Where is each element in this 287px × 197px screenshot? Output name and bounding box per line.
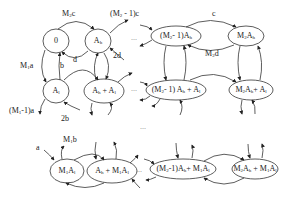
edge-label-m2m1c: (M2 - 1)c bbox=[110, 10, 139, 18]
edge-label-a: a bbox=[36, 144, 40, 152]
edge-label-2b: 2b bbox=[61, 115, 69, 123]
edge-label-m1m1a: (M1-1)a bbox=[9, 107, 34, 115]
edge-label-m1a: M1a bbox=[20, 62, 33, 70]
node-label: (M2-1)Ah+ M1Al bbox=[156, 165, 209, 173]
node-label: M1Al bbox=[59, 167, 76, 175]
ellipsis: ... bbox=[131, 85, 137, 93]
node-label: Ah + Al bbox=[92, 87, 116, 95]
edge-label-2d: 2d bbox=[113, 52, 121, 60]
node-label: Al bbox=[52, 87, 59, 95]
ellipsis: ... bbox=[140, 123, 146, 131]
node-label: M2Ah bbox=[237, 32, 255, 40]
edge-label-b: b bbox=[60, 62, 64, 70]
node-label: 0 bbox=[54, 37, 58, 45]
node-label: M2Ah+ Al bbox=[235, 86, 266, 94]
node-label: Ah + M1Al bbox=[95, 167, 129, 175]
edge-label-m2d: M2d bbox=[205, 50, 219, 58]
node-label: (M2- 1)Ah bbox=[160, 32, 192, 40]
edge-label-m1b: M1b bbox=[63, 136, 77, 144]
ellipsis: ... bbox=[131, 34, 137, 42]
node-label: M2Ah + M1Al bbox=[233, 165, 276, 173]
edge-label-c: c bbox=[212, 10, 216, 18]
ellipsis: ... bbox=[136, 166, 142, 174]
node-label: Ah bbox=[94, 37, 102, 45]
edge-label-d: d bbox=[73, 56, 77, 64]
edge-label-m2c: M2c bbox=[62, 10, 75, 18]
node-label: (M2- 1) Ah + Al bbox=[152, 86, 201, 94]
